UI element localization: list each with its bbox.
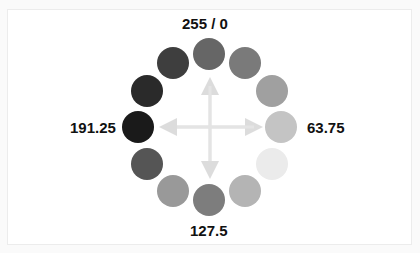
gray-circle-bottom-left bbox=[157, 175, 189, 207]
gray-circle-bottom bbox=[193, 184, 225, 216]
gray-circle-left-upper bbox=[131, 75, 163, 107]
label-bottom: 127.5 bbox=[190, 223, 228, 238]
gray-circle-top-left bbox=[157, 47, 189, 79]
gray-circle-top bbox=[193, 38, 225, 70]
gray-circle-left-lower bbox=[131, 148, 163, 180]
gray-circle-top-right bbox=[229, 47, 261, 79]
gray-circle-right-lower bbox=[256, 148, 288, 180]
gray-circle-left bbox=[122, 111, 154, 143]
gray-circle-right bbox=[265, 111, 297, 143]
gray-circle-right-upper bbox=[256, 75, 288, 107]
label-top: 255 / 0 bbox=[182, 16, 228, 31]
label-right: 63.75 bbox=[307, 120, 345, 135]
label-left: 191.25 bbox=[70, 120, 116, 135]
gray-circle-bottom-right bbox=[229, 175, 261, 207]
